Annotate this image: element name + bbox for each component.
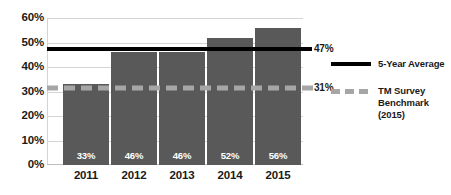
bar-chart: 60% 50% 40% 30% 20% 10% 0% 33% 46% 46% 5… — [0, 0, 451, 195]
bar-value-label: 46% — [111, 151, 157, 161]
chart-legend: 5-Year Average TM Survey Benchmark (2015… — [331, 58, 449, 134]
legend-item-label-line2: Benchmark (2015) — [378, 97, 449, 121]
x-axis-tick-label-2011: 2011 — [63, 170, 109, 182]
gridline-60 — [47, 18, 303, 19]
y-axis-tick-label: 30% — [0, 86, 44, 98]
legend-item-label: 5-Year Average — [378, 58, 449, 70]
y-axis-tick-label: 50% — [0, 37, 44, 49]
bar-value-label: 33% — [63, 151, 109, 161]
average-reference-line — [47, 47, 303, 51]
legend-item-benchmark[interactable]: TM Survey Benchmark (2015) — [331, 85, 449, 121]
bar-value-label: 46% — [159, 151, 205, 161]
y-axis-tick-label: 60% — [0, 12, 44, 24]
legend-item-average[interactable]: 5-Year Average — [331, 58, 449, 72]
x-axis-tick-label-2012: 2012 — [111, 170, 157, 182]
bar-2011[interactable]: 33% — [63, 84, 109, 165]
y-axis-tick-label: 10% — [0, 135, 44, 147]
x-axis-tick-label-2014: 2014 — [207, 170, 253, 182]
bar-2013[interactable]: 46% — [159, 52, 205, 165]
y-axis-tick-label: 20% — [0, 110, 44, 122]
dashed-line-swatch-icon — [331, 89, 371, 94]
x-axis-tick-label-2015: 2015 — [255, 170, 301, 182]
x-axis-tick-label-2013: 2013 — [159, 170, 205, 182]
benchmark-reference-line — [47, 86, 303, 91]
bar-value-label: 52% — [207, 151, 253, 161]
solid-line-swatch-icon — [331, 62, 371, 66]
y-axis-tick-label: 40% — [0, 61, 44, 73]
legend-item-label: TM Survey — [378, 85, 449, 97]
bar-2014[interactable]: 52% — [207, 38, 253, 165]
bar-2012[interactable]: 46% — [111, 52, 157, 165]
plot-area: 33% 46% 46% 52% 56% — [47, 18, 303, 165]
average-reference-line-tail — [303, 47, 312, 51]
y-axis-tick-label: 0% — [0, 159, 44, 171]
average-reference-value-label: 47% — [314, 44, 333, 54]
bar-value-label: 56% — [255, 151, 301, 161]
benchmark-reference-line-tail — [303, 86, 313, 91]
